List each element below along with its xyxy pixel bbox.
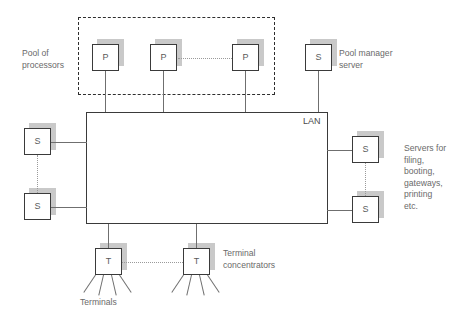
processor-2-label: P <box>160 52 166 62</box>
terminal-leg <box>199 275 205 296</box>
terminal-concentrator-2-link <box>196 224 197 248</box>
lan-network <box>86 112 328 224</box>
left-server-1-link <box>51 142 87 143</box>
processor-1-link <box>105 71 106 113</box>
terminals-caption: Terminals <box>80 297 150 309</box>
right-server-2[interactable]: S <box>352 196 379 223</box>
terminal-leg <box>207 275 220 293</box>
left-server-1-label: S <box>34 136 40 146</box>
processor-3-link <box>245 71 246 113</box>
right-server-1-link <box>327 150 353 151</box>
right-server-2-label: S <box>362 204 368 214</box>
terminal-leg <box>98 275 104 296</box>
right-server-1[interactable]: S <box>352 136 379 163</box>
processor-2[interactable]: P <box>150 44 177 71</box>
right-server-2-link <box>327 210 353 211</box>
pool-manager-server-link <box>318 71 319 113</box>
terminal-leg <box>171 275 184 293</box>
left-server-2-label: S <box>34 201 40 211</box>
processor-2-link <box>163 71 164 113</box>
right-server-1-label: S <box>362 144 368 154</box>
pool-of-processors-caption: Pool of processors <box>22 48 82 71</box>
terminal-concentrators-caption: Terminal concentrators <box>223 248 303 271</box>
terminal-concentrators-link-dotted <box>122 262 183 263</box>
right-servers-link-dotted <box>365 163 366 196</box>
terminal-leg <box>83 275 96 293</box>
terminal-leg <box>186 275 192 296</box>
pool-manager-server-label: S <box>315 52 321 62</box>
left-server-2-link <box>51 207 87 208</box>
terminal-concentrator-1[interactable]: T <box>95 248 122 275</box>
left-server-2[interactable]: S <box>24 193 51 220</box>
right-servers-caption: Servers for filing, booting, gateways, p… <box>404 143 470 212</box>
left-servers-link-dotted <box>37 155 38 193</box>
terminal-concentrator-1-link <box>108 224 109 248</box>
terminal-concentrator-2[interactable]: T <box>183 248 210 275</box>
processor-1[interactable]: P <box>92 44 119 71</box>
terminal-leg <box>111 275 117 296</box>
processor-3-label: P <box>242 52 248 62</box>
processor-link-dotted <box>178 58 232 59</box>
terminal-concentrator-1-label: T <box>106 256 112 266</box>
diagram-canvas: Pool of processors P P P S Pool manager … <box>0 0 473 312</box>
processor-3[interactable]: P <box>232 44 259 71</box>
lan-label: LAN <box>303 116 321 126</box>
pool-manager-server-caption: Pool manager server <box>339 48 429 71</box>
pool-manager-server[interactable]: S <box>305 44 332 71</box>
terminal-concentrator-2-label: T <box>194 256 200 266</box>
terminal-leg <box>119 275 132 293</box>
left-server-1[interactable]: S <box>24 128 51 155</box>
processor-1-label: P <box>102 52 108 62</box>
